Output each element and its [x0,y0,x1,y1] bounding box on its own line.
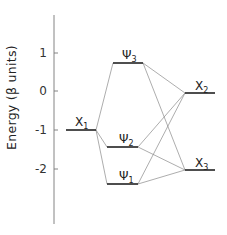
label-x3-main: X [195,156,203,170]
label-x1: X1 [75,116,88,131]
label-psi3: Ψ3 [122,49,137,64]
label-x2-main: X [195,79,203,93]
tick-label-minus-1: -1 [23,124,47,136]
tick-label-0: 0 [23,85,47,97]
label-x2-sub: 2 [203,86,208,95]
y-axis-label: Energy (β units) [4,45,19,150]
tick-label-minus-2: -2 [23,163,47,175]
label-psi2-sub: 2 [128,139,133,148]
label-psi1: Ψ1 [119,170,134,185]
correlation-lines [96,63,185,184]
label-x1-sub: 1 [83,122,88,131]
label-x3: X3 [195,157,208,172]
label-x2: X2 [195,80,208,95]
energy-level-diagram [0,0,227,235]
label-x1-main: X [75,115,83,129]
label-x3-sub: 3 [203,163,208,172]
tick-label-1: 1 [23,47,47,59]
label-psi2: Ψ2 [119,133,134,148]
label-psi1-sub: 1 [128,176,133,185]
label-psi3-sub: 3 [131,55,136,64]
